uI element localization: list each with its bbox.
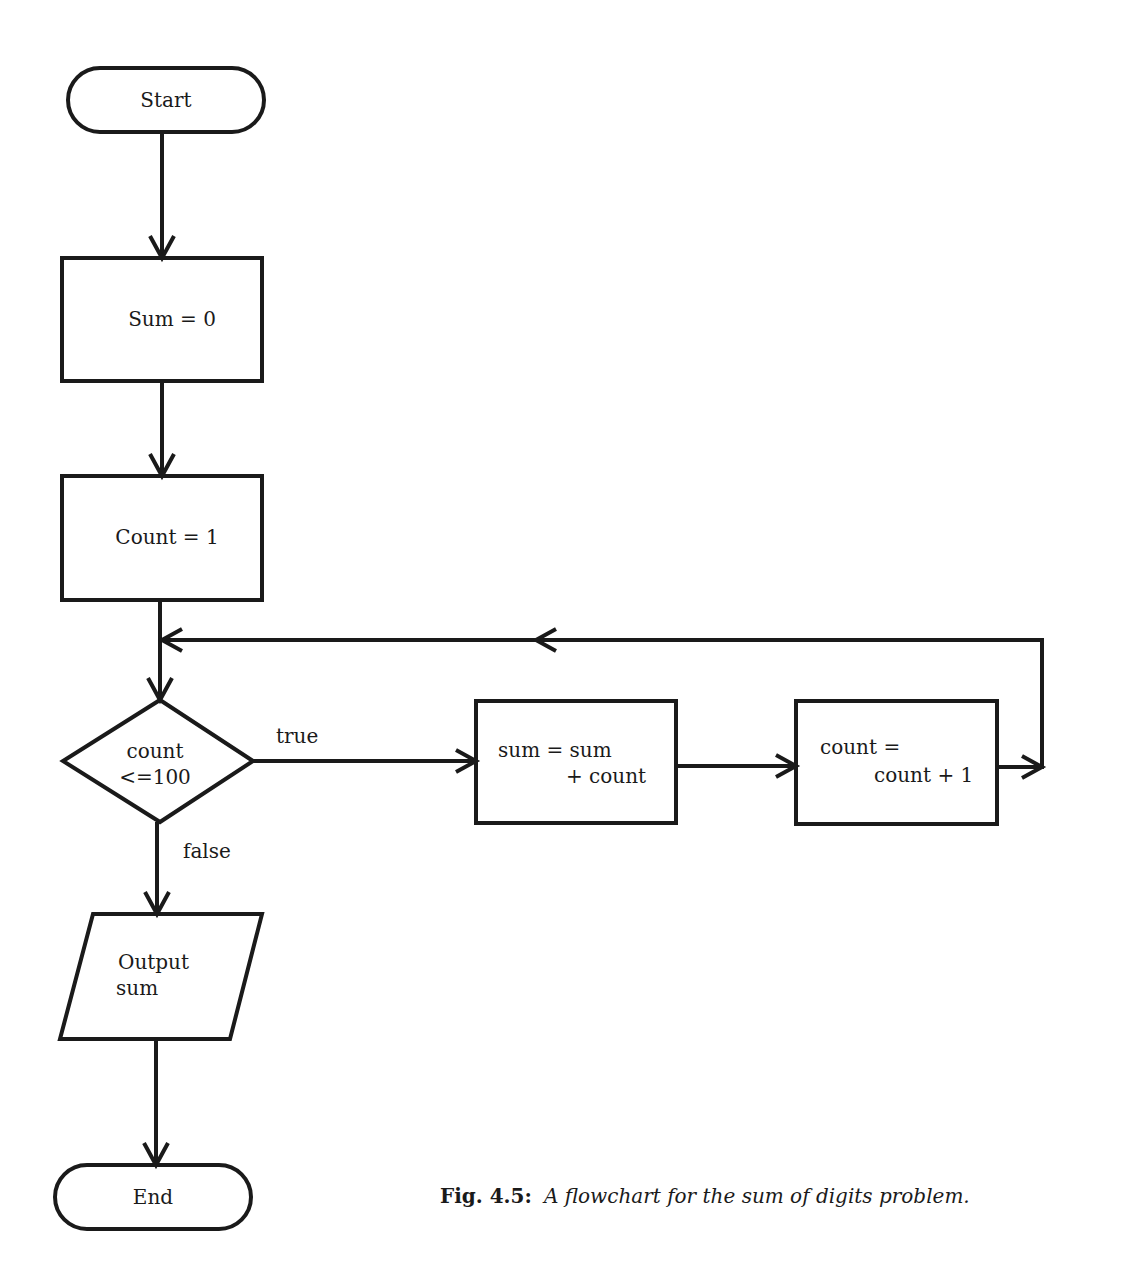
figure-number: Fig. 4.5: (440, 1184, 532, 1208)
count-init-label: Count = 1 (62, 524, 272, 550)
increment-label-line2: count + 1 (874, 762, 973, 788)
add-label-line1: sum = sum (498, 737, 612, 763)
output-label-line1: Output (118, 949, 189, 975)
figure-caption: Fig. 4.5:A flowchart for the sum of digi… (440, 1184, 970, 1208)
true-edge-label: true (276, 723, 318, 749)
decision-label-line1: count (100, 738, 210, 764)
false-edge-label: false (183, 838, 231, 864)
end-label: End (55, 1184, 251, 1210)
output-parallelogram-shape (60, 914, 262, 1039)
decision-label-line2: <=100 (100, 764, 210, 790)
figure-caption-text: A flowchart for the sum of digits proble… (544, 1184, 970, 1208)
flowchart-canvas (0, 0, 1136, 1282)
output-label-line2: sum (116, 975, 158, 1001)
sum-init-label: Sum = 0 (62, 306, 282, 332)
increment-label-line1: count = (820, 734, 900, 760)
start-label: Start (68, 87, 264, 113)
add-label-line2: + count (566, 763, 646, 789)
